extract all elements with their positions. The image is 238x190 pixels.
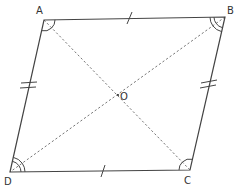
vertex-label-b: B <box>227 5 234 16</box>
tick-ad-2 <box>20 87 36 88</box>
tick-bc-2 <box>200 85 216 88</box>
vertex-label-d: D <box>4 176 12 187</box>
vertex-label-a: A <box>36 5 43 16</box>
vertex-label-c: C <box>184 175 191 186</box>
angle-arc-d-outer <box>13 157 25 171</box>
center-point-o <box>117 94 119 96</box>
tick-ad-1 <box>21 82 37 83</box>
angle-arc-b-inner <box>214 17 223 28</box>
angle-arc-b-outer <box>210 17 222 31</box>
center-label-o: O <box>120 91 128 102</box>
tick-bc-1 <box>201 80 217 83</box>
parallelogram-diagram: A B C D O <box>0 0 238 190</box>
